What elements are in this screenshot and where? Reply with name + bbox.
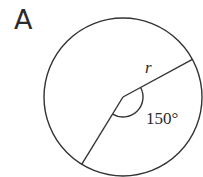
radius-label: r xyxy=(145,58,152,77)
angle-label: 150° xyxy=(146,109,178,128)
angle-arc xyxy=(113,88,143,118)
radius-line-upper xyxy=(123,59,192,97)
panel-label: A xyxy=(14,6,32,33)
circle-diagram: A r 150° xyxy=(0,0,203,177)
radius-line-lower xyxy=(82,97,123,164)
